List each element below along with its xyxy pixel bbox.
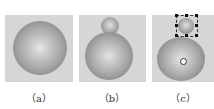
panel-b-label: （b） — [92, 90, 132, 105]
panel-a — [5, 15, 73, 82]
resize-handle[interactable] — [175, 14, 178, 17]
panel-a-label: （a） — [19, 90, 59, 105]
panel-c-label: （c） — [163, 90, 203, 105]
center-point-icon[interactable] — [180, 58, 187, 65]
resize-handle[interactable] — [185, 14, 188, 17]
panel-b — [79, 15, 146, 82]
sphere — [13, 21, 67, 75]
resize-handle[interactable] — [195, 34, 198, 37]
panel-c — [152, 15, 214, 82]
resize-handle[interactable] — [195, 14, 198, 17]
sphere — [85, 32, 133, 80]
resize-handle[interactable] — [175, 24, 178, 27]
resize-handle[interactable] — [195, 24, 198, 27]
